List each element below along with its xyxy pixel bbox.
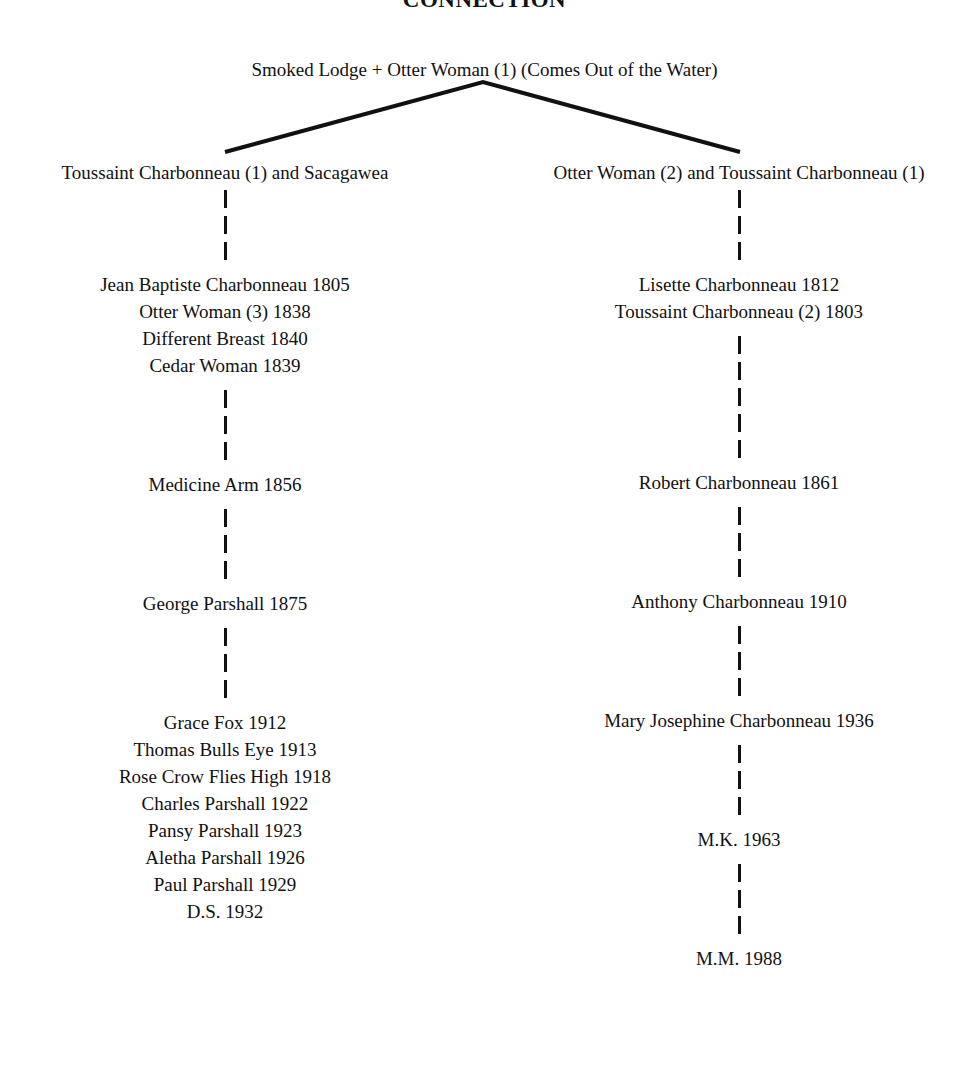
spacer bbox=[5, 583, 445, 590]
descent-line-segment bbox=[519, 384, 959, 410]
descent-line-segment bbox=[519, 529, 959, 555]
spacer bbox=[519, 496, 959, 503]
descent-line-segment bbox=[519, 860, 959, 886]
spacer bbox=[5, 498, 445, 505]
lineage-entry: Robert Charbonneau 1861 bbox=[519, 469, 959, 496]
spacer bbox=[519, 819, 959, 826]
lineage-entry: Otter Woman (3) 1838 bbox=[5, 298, 445, 325]
spacer bbox=[519, 615, 959, 622]
descent-line-segment bbox=[519, 741, 959, 767]
lineage-entry: Jean Baptiste Charbonneau 1805 bbox=[5, 271, 445, 298]
lineage-entry: Anthony Charbonneau 1910 bbox=[519, 588, 959, 615]
descent-line-segment bbox=[519, 186, 959, 212]
lineage-entry: Different Breast 1840 bbox=[5, 325, 445, 352]
descent-line-segment bbox=[519, 238, 959, 264]
lineage-left-body: Jean Baptiste Charbonneau 1805Otter Woma… bbox=[5, 186, 445, 925]
descent-line-segment bbox=[519, 622, 959, 648]
descent-line-segment bbox=[5, 238, 445, 264]
descent-line-segment bbox=[5, 186, 445, 212]
spacer bbox=[519, 700, 959, 707]
lineage-entry: Grace Fox 1912 bbox=[5, 709, 445, 736]
spacer bbox=[5, 264, 445, 271]
lineage-entry: Paul Parshall 1929 bbox=[5, 871, 445, 898]
descent-line-segment bbox=[519, 767, 959, 793]
lineage-entry: Mary Josephine Charbonneau 1936 bbox=[519, 707, 959, 734]
lineage-column-left: Toussaint Charbonneau (1) and Sacagawea … bbox=[5, 160, 445, 925]
descent-line-segment bbox=[5, 676, 445, 702]
descent-line-segment bbox=[5, 505, 445, 531]
descent-line-segment bbox=[5, 412, 445, 438]
lineage-entry: Charles Parshall 1922 bbox=[5, 790, 445, 817]
spacer bbox=[519, 938, 959, 945]
lineage-entry: M.K. 1963 bbox=[519, 826, 959, 853]
branch-v-line bbox=[225, 82, 740, 152]
branch-connector bbox=[0, 74, 969, 160]
lineage-entry: M.M. 1988 bbox=[519, 945, 959, 972]
spacer bbox=[5, 464, 445, 471]
lineage-right-heading: Otter Woman (2) and Toussaint Charbonnea… bbox=[519, 160, 959, 186]
descent-line-segment bbox=[519, 503, 959, 529]
page-title: CONNECTION bbox=[0, 0, 969, 13]
spacer bbox=[5, 702, 445, 709]
lineage-entry: Toussaint Charbonneau (2) 1803 bbox=[519, 298, 959, 325]
lineage-entry: Lisette Charbonneau 1812 bbox=[519, 271, 959, 298]
descent-line-segment bbox=[519, 436, 959, 462]
spacer bbox=[5, 379, 445, 386]
lineage-entry: Rose Crow Flies High 1918 bbox=[5, 763, 445, 790]
descent-line-segment bbox=[5, 212, 445, 238]
descent-line-segment bbox=[519, 674, 959, 700]
lineage-column-right: Otter Woman (2) and Toussaint Charbonnea… bbox=[519, 160, 959, 972]
lineage-entry: Thomas Bulls Eye 1913 bbox=[5, 736, 445, 763]
descent-line-segment bbox=[5, 386, 445, 412]
lineage-entry: Medicine Arm 1856 bbox=[5, 471, 445, 498]
descent-line-segment bbox=[519, 332, 959, 358]
spacer bbox=[519, 325, 959, 332]
spacer bbox=[519, 734, 959, 741]
descent-line-segment bbox=[519, 358, 959, 384]
descent-line-segment bbox=[5, 531, 445, 557]
descent-line-segment bbox=[519, 555, 959, 581]
lineage-entry: Cedar Woman 1839 bbox=[5, 352, 445, 379]
descent-line-segment bbox=[519, 410, 959, 436]
spacer bbox=[519, 264, 959, 271]
descent-line-segment bbox=[519, 793, 959, 819]
lineage-entry: George Parshall 1875 bbox=[5, 590, 445, 617]
descent-line-segment bbox=[5, 438, 445, 464]
descent-line-segment bbox=[5, 624, 445, 650]
descent-line-segment bbox=[519, 912, 959, 938]
spacer bbox=[519, 462, 959, 469]
lineage-entry: Pansy Parshall 1923 bbox=[5, 817, 445, 844]
spacer bbox=[519, 853, 959, 860]
spacer bbox=[519, 581, 959, 588]
lineage-entry: Aletha Parshall 1926 bbox=[5, 844, 445, 871]
lineage-left-heading: Toussaint Charbonneau (1) and Sacagawea bbox=[5, 160, 445, 186]
lineage-right-body: Lisette Charbonneau 1812Toussaint Charbo… bbox=[519, 186, 959, 972]
descent-line-segment bbox=[5, 650, 445, 676]
descent-line-segment bbox=[5, 557, 445, 583]
descent-line-segment bbox=[519, 648, 959, 674]
descent-line-segment bbox=[519, 886, 959, 912]
descent-line-segment bbox=[519, 212, 959, 238]
lineage-entry: D.S. 1932 bbox=[5, 898, 445, 925]
spacer bbox=[5, 617, 445, 624]
